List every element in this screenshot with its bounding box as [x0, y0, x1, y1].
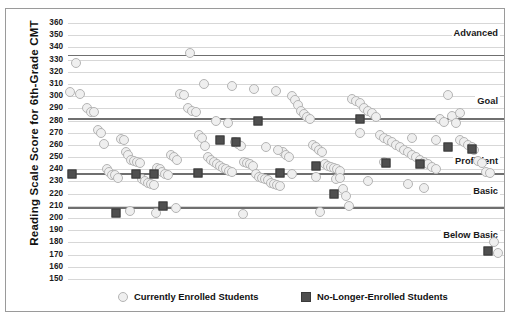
data-point-no-longer-enrolled	[150, 170, 159, 179]
data-point-currently-enrolled	[65, 87, 75, 97]
gridline	[68, 255, 504, 256]
y-axis-tick-label: 220	[49, 190, 63, 198]
data-point-no-longer-enrolled	[194, 168, 203, 177]
data-point-currently-enrolled	[371, 112, 381, 122]
data-point-currently-enrolled	[238, 209, 248, 219]
data-point-no-longer-enrolled	[254, 116, 263, 125]
data-point-currently-enrolled	[455, 108, 465, 118]
y-axis-title: Reading Scale Score for 6th-Grade CMT	[28, 8, 40, 258]
data-point-currently-enrolled	[223, 118, 233, 128]
data-point-currently-enrolled	[485, 168, 495, 178]
data-point-no-longer-enrolled	[382, 159, 391, 168]
data-point-currently-enrolled	[249, 84, 259, 94]
band-label-goal: Goal	[475, 96, 500, 106]
data-point-no-longer-enrolled	[276, 168, 285, 177]
data-point-currently-enrolled	[335, 173, 345, 183]
data-point-currently-enrolled	[99, 139, 109, 149]
gridline	[68, 242, 504, 243]
data-point-currently-enrolled	[125, 206, 135, 216]
square-icon	[301, 292, 311, 302]
plot-area: 3603503403303203103002902802702602502402…	[68, 23, 504, 279]
y-axis-tick-label: 300	[49, 92, 63, 100]
y-axis-tick-label: 170	[49, 251, 63, 259]
data-point-currently-enrolled	[227, 167, 237, 177]
chart-frame: Reading Scale Score for 6th-Grade CMT 36…	[5, 8, 505, 312]
y-axis-tick-label: 240	[49, 165, 63, 173]
data-point-currently-enrolled	[199, 79, 209, 89]
legend-label-no-longer-enrolled: No-Longer-Enrolled Students	[317, 291, 448, 302]
data-point-currently-enrolled	[89, 107, 99, 117]
data-point-currently-enrolled	[305, 114, 315, 124]
y-axis-tick-label: 280	[49, 116, 63, 124]
gridline	[68, 72, 504, 73]
data-point-currently-enrolled	[451, 118, 461, 128]
data-point-currently-enrolled	[96, 128, 106, 138]
data-point-currently-enrolled	[227, 81, 237, 91]
y-axis-tick-label: 340	[49, 43, 63, 51]
y-axis-tick-label: 230	[49, 177, 63, 185]
data-point-no-longer-enrolled	[484, 246, 493, 255]
y-axis-tick-label: 190	[49, 226, 63, 234]
y-axis-tick-label: 250	[49, 153, 63, 161]
data-point-currently-enrolled	[431, 135, 441, 145]
data-point-currently-enrolled	[200, 141, 210, 151]
gridline	[68, 60, 504, 61]
data-point-no-longer-enrolled	[232, 138, 241, 147]
data-point-currently-enrolled	[135, 158, 145, 168]
data-point-currently-enrolled	[363, 176, 373, 186]
y-axis-tick-label: 150	[49, 275, 63, 283]
data-point-currently-enrolled	[317, 147, 327, 157]
data-point-currently-enrolled	[185, 48, 195, 58]
y-axis-tick-label: 210	[49, 202, 63, 210]
legend-label-currently-enrolled: Currently Enrolled Students	[134, 291, 259, 302]
data-point-currently-enrolled	[163, 170, 173, 180]
y-axis-tick-label: 270	[49, 129, 63, 137]
gridline	[68, 218, 504, 219]
gridline	[68, 145, 504, 146]
chart-root: Reading Scale Score for 6th-Grade CMT 36…	[0, 0, 511, 320]
data-point-no-longer-enrolled	[216, 136, 225, 145]
data-point-currently-enrolled	[119, 135, 129, 145]
gridline	[68, 47, 504, 48]
data-point-currently-enrolled	[431, 164, 441, 174]
data-point-no-longer-enrolled	[112, 209, 121, 218]
legend-item-currently-enrolled: Currently Enrolled Students	[118, 291, 259, 302]
data-point-no-longer-enrolled	[159, 201, 168, 210]
gridline	[68, 23, 504, 24]
data-point-currently-enrolled	[179, 90, 189, 100]
gridline	[68, 279, 504, 280]
y-axis-tick-label: 200	[49, 214, 63, 222]
data-point-currently-enrolled	[311, 172, 321, 182]
y-axis-tick-label: 160	[49, 263, 63, 271]
data-point-currently-enrolled	[275, 181, 285, 191]
data-point-currently-enrolled	[149, 180, 159, 190]
data-point-currently-enrolled	[443, 90, 453, 100]
data-point-currently-enrolled	[191, 107, 201, 117]
gridline	[68, 230, 504, 231]
data-point-no-longer-enrolled	[416, 160, 425, 169]
band-label-basic: Basic	[471, 186, 500, 196]
data-point-currently-enrolled	[113, 173, 123, 183]
data-point-currently-enrolled	[341, 191, 351, 201]
data-point-currently-enrolled	[344, 201, 354, 211]
y-axis-tick-label: 310	[49, 80, 63, 88]
gridline	[68, 194, 504, 195]
data-point-currently-enrolled	[171, 203, 181, 213]
data-point-currently-enrolled	[315, 207, 325, 217]
data-point-currently-enrolled	[273, 145, 283, 155]
gridline	[68, 108, 504, 109]
data-point-currently-enrolled	[284, 152, 294, 162]
data-point-currently-enrolled	[271, 86, 281, 96]
data-point-currently-enrolled	[419, 183, 429, 193]
gridline	[68, 267, 504, 268]
data-point-currently-enrolled	[493, 248, 503, 258]
band-boundary-line	[68, 55, 504, 57]
data-point-no-longer-enrolled	[132, 170, 141, 179]
circle-icon	[118, 292, 128, 302]
y-axis-tick-label: 180	[49, 238, 63, 246]
data-point-currently-enrolled	[211, 116, 221, 126]
y-axis-tick-label: 320	[49, 68, 63, 76]
gridline	[68, 35, 504, 36]
data-point-no-longer-enrolled	[468, 144, 477, 153]
data-point-currently-enrolled	[407, 133, 417, 143]
